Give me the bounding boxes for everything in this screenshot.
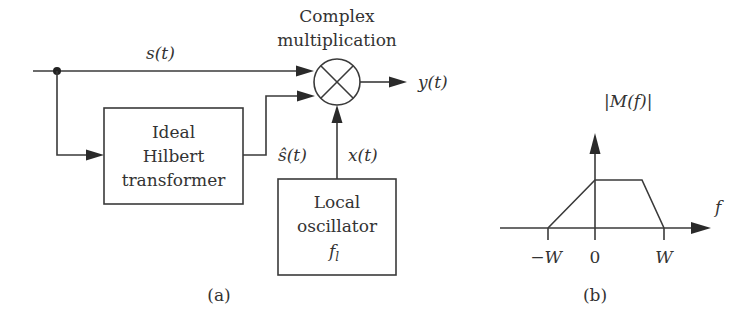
spectrum-curve: [548, 180, 664, 228]
tick-label-w: W: [655, 247, 674, 267]
multiplier-title-line1: Complex: [299, 6, 375, 26]
oscillator-line1: Local: [314, 192, 361, 212]
tick-label-zero: 0: [590, 247, 601, 267]
hilbert-line3: transformer: [122, 170, 227, 190]
hilbert-line1: Ideal: [152, 122, 195, 142]
label-y-t: y(t): [417, 72, 448, 92]
y-axis-label: |M(f)|: [604, 91, 652, 111]
hilbert-branch-line: [57, 71, 90, 155]
output-arrow-icon: [389, 77, 407, 88]
label-x-t: x(t): [348, 145, 378, 165]
oscillator-line2: oscillator: [297, 216, 378, 236]
hilbert-input-arrow-icon: [86, 150, 104, 161]
multiplier-title-line2: multiplication: [277, 30, 397, 50]
tick-label-neg-w: −W: [530, 247, 563, 267]
x-axis-arrow-icon: [691, 222, 711, 234]
x-axis-label: f: [713, 197, 724, 217]
caption-b: (b): [583, 285, 607, 305]
s-arrow-icon: [296, 66, 314, 77]
label-s-t: s(t): [146, 43, 175, 63]
caption-a: (a): [207, 285, 230, 305]
panel-b: |M(f)| f −W 0 W (b): [500, 91, 724, 305]
figure-canvas: Ideal Hilbert transformer Complex multip…: [0, 0, 756, 323]
label-s-hat-t: ŝ(t): [278, 145, 307, 165]
panel-a: Ideal Hilbert transformer Complex multip…: [33, 6, 448, 305]
y-axis-arrow-icon: [590, 133, 601, 154]
hilbert-line2: Hilbert: [143, 146, 205, 166]
oscillator-freq-sub: l: [335, 250, 339, 264]
x-arrow-icon: [332, 105, 343, 123]
s-hat-arrow-icon: [297, 91, 315, 102]
